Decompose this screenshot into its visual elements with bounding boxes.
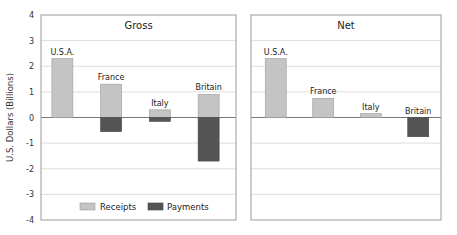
legend-label-receipts: Receipts [100, 202, 137, 212]
legend: ReceiptsPayments [80, 202, 209, 212]
y-axis: 43210-1-2-3-4 [26, 11, 34, 225]
y-tick-label: -1 [26, 139, 34, 148]
category-label: U.S.A. [264, 48, 288, 57]
panel-title: Gross [124, 20, 152, 31]
bar-receipts [198, 94, 219, 117]
legend-swatch-receipts [80, 203, 95, 210]
bar-receipts [313, 98, 334, 117]
panel-net: NetU.S.A.FranceItalyBritain [251, 15, 441, 220]
legend-label-payments: Payments [167, 202, 209, 212]
y-tick-label: 2 [29, 62, 34, 71]
y-tick-label: -2 [26, 165, 34, 174]
bar-payments [408, 118, 429, 137]
bar-receipts [360, 114, 381, 118]
panel-gross: GrossU.S.A.FranceItalyBritain [41, 15, 236, 220]
category-label: U.S.A. [50, 48, 74, 57]
category-label: Britain [195, 83, 221, 92]
category-label: Italy [362, 103, 380, 112]
chart: 43210-1-2-3-4 U.S. Dollars (Billions) Gr… [0, 0, 457, 235]
y-tick-label: -4 [26, 216, 34, 225]
bar-payments [198, 118, 219, 162]
y-tick-label: 1 [29, 88, 34, 97]
bar-receipts [101, 84, 122, 117]
bar-receipts [149, 110, 170, 118]
category-label: Italy [151, 99, 169, 108]
bar-payments [101, 118, 122, 132]
y-tick-label: 4 [29, 11, 34, 20]
bar-receipts [52, 59, 73, 118]
y-tick-label: -3 [26, 190, 34, 199]
y-tick-label: 0 [29, 114, 34, 123]
panel-title: Net [337, 20, 355, 31]
y-tick-label: 3 [29, 37, 34, 46]
category-label: Britain [405, 107, 431, 116]
bar-receipts [265, 59, 286, 118]
category-label: France [98, 73, 125, 82]
y-axis-label: U.S. Dollars (Billions) [5, 73, 15, 162]
category-label: France [310, 87, 337, 96]
bar-payments [149, 118, 170, 122]
legend-swatch-payments [148, 203, 163, 210]
